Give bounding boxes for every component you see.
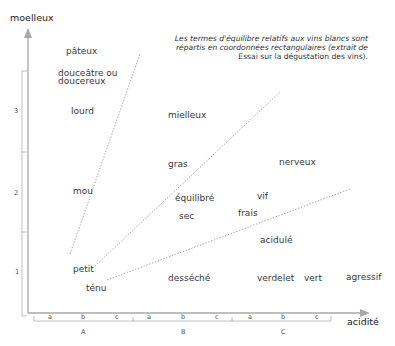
x-sub-tick: c bbox=[215, 313, 219, 321]
caption-line-2: répartis en coordonnées rectangulaires (… bbox=[175, 43, 368, 52]
term-gras: gras bbox=[168, 159, 188, 169]
term-lourd: lourd bbox=[71, 106, 94, 116]
term-vif: vif bbox=[257, 191, 268, 201]
term-tenu: ténu bbox=[86, 283, 106, 293]
term-equilibre: équilibré bbox=[175, 193, 214, 203]
term-douceatre: douceâtre ou doucereux bbox=[58, 69, 118, 85]
x-sub-tick: b bbox=[81, 313, 85, 321]
term-desseche: desséché bbox=[168, 273, 210, 283]
x-group-b: B bbox=[181, 328, 185, 336]
term-mou: mou bbox=[73, 186, 93, 196]
y-tick-2: 2 bbox=[14, 189, 18, 197]
caption-line-3: Essai sur la dégustation des vins). bbox=[175, 52, 368, 61]
x-sub-tick: a bbox=[48, 313, 52, 321]
term-acidule: acidulé bbox=[260, 235, 292, 245]
term-agressif: agressif bbox=[346, 272, 381, 282]
x-axis-label: acidité bbox=[347, 316, 379, 327]
x-sub-tick: b bbox=[181, 313, 185, 321]
x-group-c: C bbox=[281, 328, 286, 336]
y-axis-label: moelleux bbox=[10, 12, 54, 23]
y-axis-arrow-icon bbox=[24, 28, 32, 38]
term-mielleux: mielleux bbox=[168, 110, 206, 120]
term-vert: vert bbox=[304, 273, 322, 283]
y-tick-1: 1 bbox=[15, 268, 19, 276]
y-tick-3: 3 bbox=[14, 107, 18, 115]
caption: Les termes d'équilibre relatifs aux vins… bbox=[175, 34, 368, 61]
term-petit: petit bbox=[73, 264, 94, 274]
term-pateux: pâteux bbox=[66, 46, 97, 56]
term-nerveux: nerveux bbox=[279, 157, 316, 167]
term-sec: sec bbox=[179, 211, 194, 221]
x-sub-tick: c bbox=[315, 313, 319, 321]
x-sub-tick: a bbox=[147, 313, 151, 321]
caption-line-1: Les termes d'équilibre relatifs aux vins… bbox=[175, 34, 368, 43]
x-sub-tick: c bbox=[115, 313, 119, 321]
x-sub-tick: b bbox=[281, 313, 285, 321]
term-frais: frais bbox=[238, 208, 258, 218]
x-sub-tick: a bbox=[248, 313, 252, 321]
term-verdelet: verdelet bbox=[257, 273, 294, 283]
x-group-a: A bbox=[81, 328, 85, 336]
dotted-line-3 bbox=[107, 189, 350, 280]
